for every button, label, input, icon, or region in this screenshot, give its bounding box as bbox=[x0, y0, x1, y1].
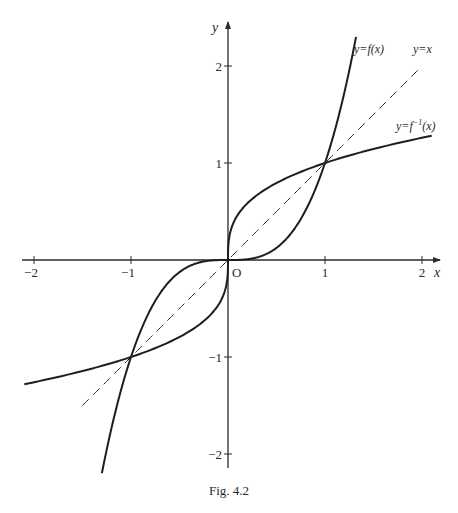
y-axis-label: y bbox=[210, 20, 219, 35]
function-inverse-plot: −2−112−2−112 x y O y=f(x) y=x y=f−1(x) bbox=[0, 0, 458, 513]
y-tick-label: −2 bbox=[208, 447, 222, 462]
y-tick-label: −1 bbox=[208, 350, 222, 365]
x-axis-label: x bbox=[433, 265, 441, 280]
inverse-curve-label: y=f−1(x) bbox=[395, 118, 436, 133]
y-tick-label: 2 bbox=[216, 59, 223, 74]
identity-line-label: y=x bbox=[412, 42, 432, 56]
origin-label: O bbox=[232, 265, 241, 280]
x-tick-label: −2 bbox=[24, 265, 38, 280]
x-tick-label: −1 bbox=[121, 265, 135, 280]
y-tick-label: 1 bbox=[216, 156, 223, 171]
figure-caption: Fig. 4.2 bbox=[0, 483, 458, 499]
f-curve-label: y=f(x) bbox=[353, 42, 384, 56]
identity-line bbox=[83, 66, 423, 406]
x-tick-label: 1 bbox=[322, 265, 329, 280]
x-tick-label: 2 bbox=[419, 265, 426, 280]
